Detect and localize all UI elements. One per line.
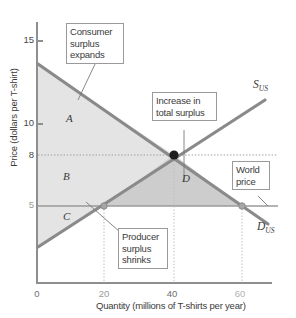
surplus-shading [0,0,296,318]
producer-surplus-line-3: shrinks [122,254,164,266]
x-axis-line [36,282,272,284]
supply-curve-subscript: US [259,84,268,93]
region-c-shape [38,206,104,247]
total-surplus-line-1: Increase in [156,95,213,107]
y-tick-label-8: 8 [16,149,34,160]
total-surplus-line-2: total surplus [156,107,213,119]
consumer-surplus-callout: Consumer surplus expands [66,23,124,64]
y-tick-label-5: 5 [16,199,34,210]
supply-demand-figure: 15 10 8 5 0 20 40 60 Price (dollars per … [0,0,296,318]
y-axis-title: Price (dollars per T-shirt) [8,43,19,193]
y-tick-mark-15 [38,40,43,42]
y-axis-line [36,22,38,284]
x-tick-label-20: 20 [94,288,114,299]
world-price-callout: World price [232,161,270,190]
x-tick-label-0: 0 [27,288,47,299]
x-tick-label-40: 40 [162,288,182,299]
demand-curve-label: DUS [257,220,274,235]
x-tick-label-60: 60 [230,288,250,299]
world-price-line-1: World [236,164,266,176]
region-label-b: B [63,170,70,182]
x-axis-title: Quantity (millions of T-shirts per year) [96,300,246,311]
region-label-c: C [63,210,70,222]
region-label-a: A [66,112,73,124]
supply-curve-label: SUS [253,78,268,93]
consumer-surplus-line-1: Consumer [70,26,120,38]
region-label-d: D [182,172,190,184]
y-tick-label-15: 15 [16,34,34,45]
demand-curve-subscript: US [265,226,274,235]
consumer-surplus-line-3: expands [70,49,120,61]
y-tick-mark-10 [38,123,43,125]
total-surplus-callout: Increase in total surplus [152,92,217,121]
producer-surplus-line-1: Producer [122,231,164,243]
consumer-surplus-line-2: surplus [70,38,120,50]
producer-surplus-callout: Producer surplus shrinks [118,228,168,269]
y-tick-label-10: 10 [16,117,34,128]
world-price-line-2: price [236,176,266,188]
producer-surplus-line-2: surplus [122,243,164,255]
